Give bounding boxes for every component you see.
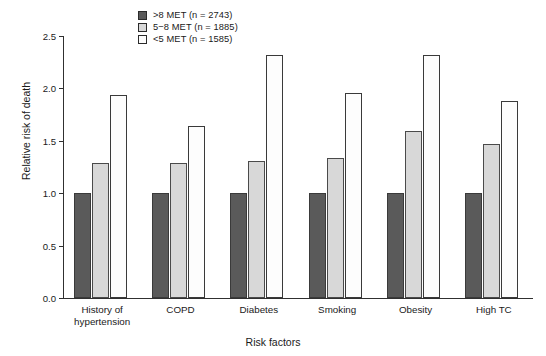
y-tick-label: 1.0 <box>43 188 56 199</box>
legend-item-mid-met: 5−8 MET (n = 1885) <box>138 22 238 33</box>
bar <box>327 158 344 298</box>
legend-item-high-met: >8 MET (n = 2743) <box>138 10 238 21</box>
bar <box>188 126 205 298</box>
bar <box>266 55 283 298</box>
bar <box>110 95 127 298</box>
x-axis-title: Risk factors <box>0 336 546 348</box>
bar <box>92 163 109 298</box>
bar <box>387 193 404 298</box>
bar-group <box>465 36 518 298</box>
y-tick-label: 0.0 <box>43 293 56 304</box>
x-category-label: High TC <box>445 304 543 316</box>
bar-group <box>309 36 362 298</box>
y-tick-mark <box>59 298 63 299</box>
legend-swatch-icon <box>138 11 147 20</box>
bar-group <box>74 36 127 298</box>
legend-label-high-met: >8 MET (n = 2743) <box>153 10 233 21</box>
y-tick-label: 1.5 <box>43 135 56 146</box>
legend-label-mid-met: 5−8 MET (n = 1885) <box>153 22 238 33</box>
plot-area: 0.00.51.01.52.02.5 History of hypertensi… <box>63 36 533 298</box>
bar <box>74 193 91 298</box>
y-tick-label: 0.5 <box>43 240 56 251</box>
bar <box>501 101 518 298</box>
bar-groups <box>63 36 533 298</box>
bar <box>248 161 265 298</box>
legend-swatch-icon <box>138 23 147 32</box>
bar <box>309 193 326 298</box>
y-tick-label: 2.0 <box>43 83 56 94</box>
bar-group <box>152 36 205 298</box>
bar <box>483 144 500 298</box>
bar <box>465 193 482 298</box>
bar-group <box>230 36 283 298</box>
bar <box>152 193 169 298</box>
y-axis-title: Relative risk of death <box>20 31 32 231</box>
bar <box>345 93 362 298</box>
bar <box>230 193 247 298</box>
bar <box>423 55 440 298</box>
bar <box>405 131 422 298</box>
bar-group <box>387 36 440 298</box>
x-axis-line <box>63 298 533 299</box>
bar-chart-figure: >8 MET (n = 2743) 5−8 MET (n = 1885) <5 … <box>0 0 546 356</box>
bar <box>170 163 187 298</box>
y-tick-label: 2.5 <box>43 31 56 42</box>
